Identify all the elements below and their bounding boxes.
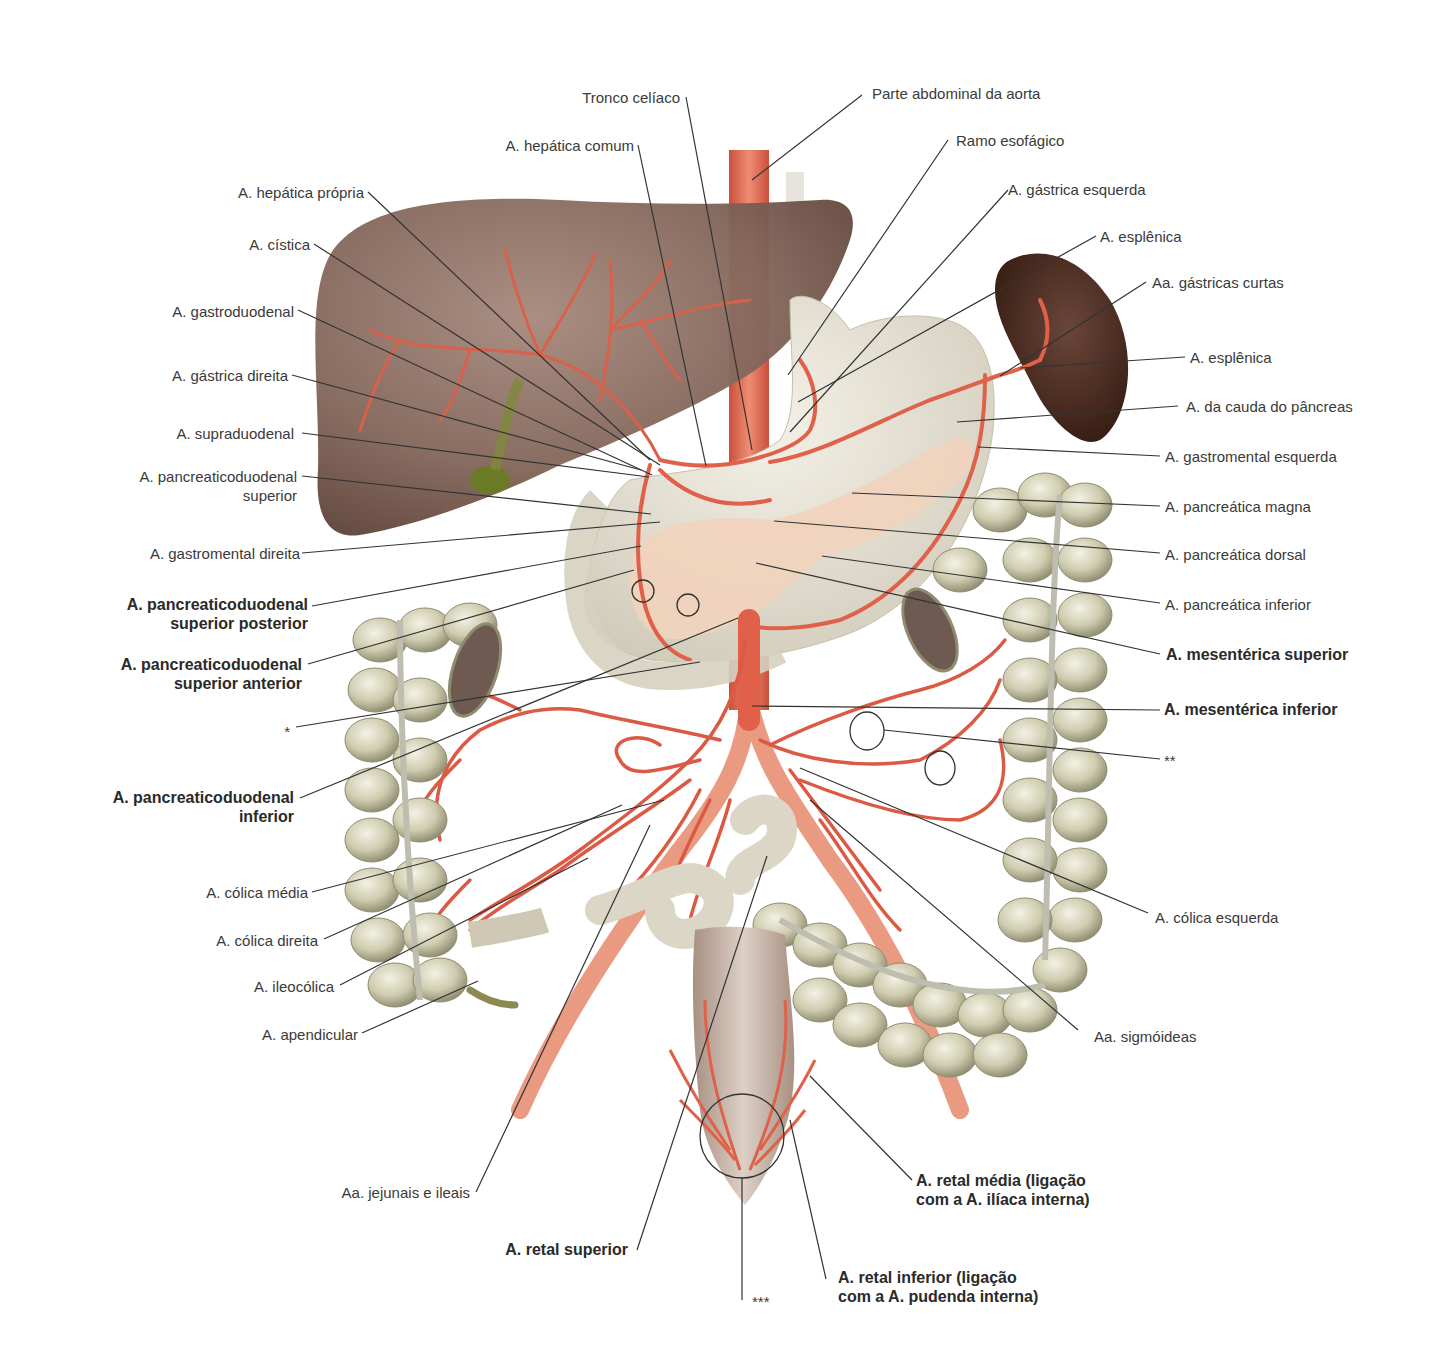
label-gastricas-curtas: Aa. gástricas curtas [1152, 273, 1284, 292]
label-mesenterica-superior: A. mesentérica superior [1166, 645, 1348, 664]
label-cauda-pancreas: A. da cauda do pâncreas [1186, 397, 1353, 416]
label-esplenica-1: A. esplênica [1100, 227, 1182, 246]
label-gastroduodenal: A. gastroduodenal [100, 302, 294, 321]
label-esplenica-2: A. esplênica [1190, 348, 1272, 367]
label-asterisk-1: * [260, 722, 290, 741]
label-gastrica-direita: A. gástrica direita [100, 366, 288, 385]
label-pd-superior-posterior: A. pancreaticoduodenal superior posterio… [40, 595, 308, 633]
label-pd-superior-anterior: A. pancreaticoduodenal superior anterior [40, 655, 302, 693]
label-pd-inferior: A. pancreaticoduodenal inferior [30, 788, 294, 826]
label-retal-superior: A. retal superior [420, 1240, 628, 1259]
label-line-1: A. retal média (ligação [916, 1171, 1090, 1190]
label-gastromental-direita: A. gastromental direita [60, 544, 300, 563]
rectum [670, 927, 815, 1205]
label-pancreaticoduodenal-superior: A. pancreaticoduodenal superior [60, 467, 297, 505]
label-line-1: A. pancreaticoduodenal [40, 595, 308, 614]
label-line-2: superior anterior [40, 674, 302, 693]
label-gastromental-esquerda: A. gastromental esquerda [1165, 447, 1337, 466]
label-colica-esquerda: A. cólica esquerda [1155, 908, 1278, 927]
label-ileocolica: A. ileocólica [160, 977, 334, 996]
label-asterisk-2: ** [1164, 751, 1176, 770]
label-line-2: superior [60, 486, 297, 505]
label-line-1: A. pancreaticoduodenal [60, 467, 297, 486]
label-colica-media: A. cólica média [120, 883, 308, 902]
label-pancreatica-inferior: A. pancreática inferior [1165, 595, 1311, 614]
label-retal-media: A. retal média (ligação com a A. ilíaca … [916, 1171, 1090, 1209]
label-line-2: com a A. ilíaca interna) [916, 1190, 1090, 1209]
label-gastrica-esquerda: A. gástrica esquerda [1008, 180, 1146, 199]
label-pancreatica-magna: A. pancreática magna [1165, 497, 1311, 516]
label-ramo-esofagico: Ramo esofágico [956, 131, 1064, 150]
ileum-appendix [470, 920, 545, 1005]
label-sigmoideas: Aa. sigmóideas [1094, 1027, 1197, 1046]
label-apendicular: A. apendicular [160, 1025, 358, 1044]
label-retal-inferior: A. retal inferior (ligação com a A. pude… [838, 1268, 1038, 1306]
label-line-1: A. pancreaticoduodenal [30, 788, 294, 807]
label-line-1: A. pancreaticoduodenal [40, 655, 302, 674]
label-parte-abdominal-aorta: Parte abdominal da aorta [872, 84, 1040, 103]
label-colica-direita: A. cólica direita [120, 931, 318, 950]
label-line-1: A. retal inferior (ligação [838, 1268, 1038, 1287]
label-mesenterica-inferior: A. mesentérica inferior [1164, 700, 1337, 719]
label-hepatica-propria: A. hepática própria [170, 183, 364, 202]
label-pancreatica-dorsal: A. pancreática dorsal [1165, 545, 1306, 564]
label-tronco-celiaco: Tronco celíaco [520, 88, 680, 107]
label-supraduodenal: A. supraduodenal [100, 424, 294, 443]
label-asterisk-3: *** [752, 1292, 770, 1311]
label-line-2: inferior [30, 807, 294, 826]
label-jejunais-ileais: Aa. jejunais e ileais [260, 1183, 470, 1202]
label-hepatica-comum: A. hepática comum [430, 136, 634, 155]
label-line-2: superior posterior [40, 614, 308, 633]
label-cistica: A. cística [170, 235, 310, 254]
ascending-colon [345, 603, 511, 1007]
label-line-2: com a A. pudenda interna) [838, 1287, 1038, 1306]
